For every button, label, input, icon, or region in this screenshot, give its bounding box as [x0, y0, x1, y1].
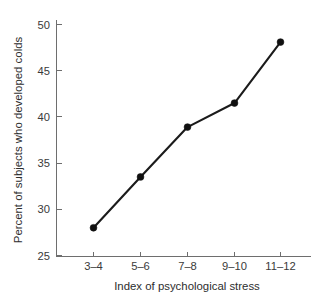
y-tick-label-40: 40 — [38, 111, 50, 123]
y-tick-label-50: 50 — [38, 19, 50, 31]
x-axis-title: Index of psychological stress — [114, 280, 260, 292]
x-tick-label-4: 9–10 — [222, 260, 247, 272]
data-point — [90, 224, 97, 231]
data-point — [277, 39, 284, 46]
y-axis-ticks — [57, 25, 62, 256]
x-tick-label-3: 7–8 — [178, 260, 197, 272]
x-axis-ticks — [94, 252, 281, 257]
x-tick-label-5: 11–12 — [265, 260, 295, 272]
x-tick-label-1: 3–4 — [84, 260, 103, 272]
y-tick-label-35: 35 — [38, 157, 50, 169]
line-chart: Percent of subjects who developed colds … — [0, 0, 327, 297]
data-series-line — [94, 42, 281, 228]
y-axis-title: Percent of subjects who developed colds — [12, 36, 24, 243]
x-tick-label-2: 5–6 — [131, 260, 150, 272]
y-tick-label-30: 30 — [38, 203, 50, 215]
data-series-markers — [90, 39, 284, 232]
chart-figure: Percent of subjects who developed colds … — [0, 0, 327, 297]
data-point — [137, 174, 144, 181]
y-tick-label-45: 45 — [38, 65, 50, 77]
data-point — [231, 100, 238, 107]
y-tick-label-25: 25 — [38, 250, 50, 262]
data-point — [184, 124, 191, 131]
